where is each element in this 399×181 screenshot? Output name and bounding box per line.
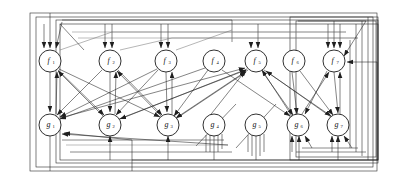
ramp-f2-out	[120, 38, 358, 50]
ramp-f3-out	[176, 30, 232, 50]
edge-f7-g7	[334, 72, 338, 113]
ramp-f1-out	[60, 32, 346, 50]
right-bus-group	[350, 17, 368, 160]
edge-g2-f1	[58, 71, 104, 117]
node-f2[interactable]: f2	[99, 50, 121, 72]
node-label-g5: g	[253, 120, 257, 129]
node-circle-f7	[323, 50, 345, 72]
feedback-frame-group	[30, 13, 378, 171]
edge-g3-f5	[177, 72, 246, 118]
top-bus-group	[62, 20, 366, 42]
ramp-right-down	[344, 21, 366, 56]
feedback-frame-2	[36, 17, 373, 167]
riser-g7-c	[344, 136, 352, 148]
edge-f4-g6	[222, 70, 290, 116]
cross-edges-down	[50, 68, 338, 119]
node-circle-f6	[283, 50, 305, 72]
riser-g6-c	[305, 136, 312, 148]
node-label-g3: g	[165, 120, 169, 129]
riser-g1-diag	[62, 134, 228, 145]
node-circle-f3	[155, 50, 177, 72]
node-label-g2: g	[107, 120, 111, 129]
node-circle-f1	[39, 50, 61, 72]
node-circle-f2	[99, 50, 121, 72]
node-g4[interactable]: g4	[203, 114, 225, 136]
feedback-frame-right-2	[296, 21, 376, 157]
node-f5[interactable]: f5	[245, 50, 267, 72]
node-circle-f4	[203, 50, 225, 72]
cross-edges-up	[56, 68, 340, 119]
node-label-g6: g	[295, 120, 299, 129]
nodes-layer: f1f2f3f4f5f6f7g1g2g3g4g5g6g7	[39, 50, 349, 136]
edge-g6-f5	[262, 70, 292, 116]
node-label-g1: g	[47, 120, 51, 129]
edge-f6-g7	[300, 71, 333, 115]
ramp-to-f1	[56, 22, 62, 48]
node-g7[interactable]: g7	[327, 114, 349, 136]
node-label-g7: g	[335, 120, 339, 129]
node-f6[interactable]: f6	[283, 50, 305, 72]
node-f3[interactable]: f3	[155, 50, 177, 72]
node-g6[interactable]: g6	[287, 114, 309, 136]
node-g3[interactable]: g3	[157, 114, 179, 136]
feedback-frame-outer	[30, 13, 377, 171]
node-g2[interactable]: g2	[99, 114, 121, 136]
node-f7[interactable]: f7	[323, 50, 345, 72]
network-diagram-svg: f1f2f3f4f5f6f7g1g2g3g4g5g6g7	[0, 0, 399, 181]
edge-g6-f7	[302, 72, 329, 114]
edge-g7-f5	[266, 71, 331, 117]
edge-f3-g3	[166, 72, 167, 112]
node-f4[interactable]: f4	[203, 50, 225, 72]
node-label-g4: g	[211, 120, 215, 129]
diagram-canvas: f1f2f3f4f5f6f7g1g2g3g4g5g6g7	[0, 0, 399, 181]
node-circle-f5	[245, 50, 267, 72]
edge-g2-f2	[115, 72, 116, 114]
node-g5[interactable]: g5	[245, 114, 267, 136]
top-feed-group	[44, 13, 340, 48]
node-g1[interactable]: g1	[39, 114, 61, 136]
node-f1[interactable]: f1	[39, 50, 61, 72]
